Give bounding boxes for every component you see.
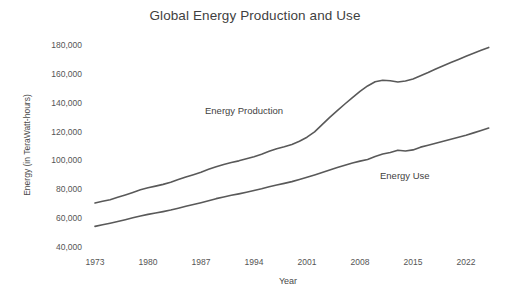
x-axis-tick-label: 2001 [282, 257, 332, 267]
x-axis-tick-label: 1980 [123, 257, 173, 267]
x-axis-title: Year [88, 276, 488, 286]
series-line-energy-use [95, 128, 489, 226]
series-label-energy-use: Energy Use [380, 170, 430, 181]
chart-container: Global Energy Production and Use Energy … [0, 0, 510, 304]
x-axis-tick-label: 1994 [229, 257, 279, 267]
x-axis-tick-label: 2015 [388, 257, 438, 267]
x-axis-tick-label: 2008 [335, 257, 385, 267]
x-axis-tick-label: 1987 [176, 257, 226, 267]
x-axis-tick-label: 1973 [70, 257, 120, 267]
series-label-energy-production: Energy Production [205, 105, 283, 116]
x-axis-tick-label: 2022 [441, 257, 491, 267]
series-line-energy-production [95, 47, 489, 203]
